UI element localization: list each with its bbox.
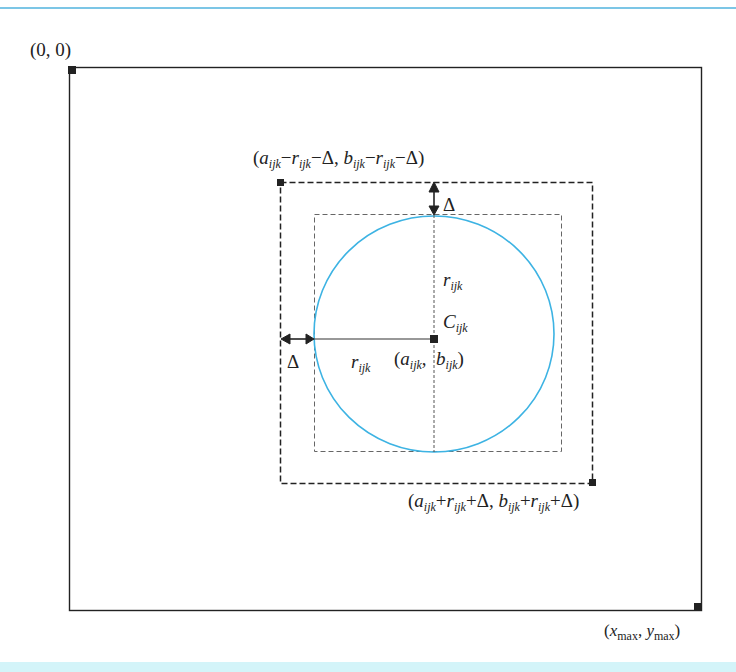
delta-left-arrow <box>281 334 314 344</box>
max-marker <box>694 603 702 611</box>
origin-marker <box>68 66 76 74</box>
delta-left-label: Δ <box>287 352 299 371</box>
expanded-bounding-box <box>281 183 593 484</box>
radius-horizontal-label: rijk <box>351 352 370 374</box>
center-coords-label: (aijk, bijk) <box>394 349 464 371</box>
max-corner-label: (xmax, ymax) <box>604 622 680 642</box>
origin-label: (0, 0) <box>30 40 71 59</box>
bottom-band <box>0 662 736 672</box>
expanded-bottom-right-marker <box>589 479 596 486</box>
delta-top-arrow <box>429 182 439 215</box>
expanded-bottom-right-label: (aijk+rijk+Δ, bijk+rijk+Δ) <box>408 491 579 513</box>
expanded-top-left-label: (aijk−rijk−Δ, bijk−rijk−Δ) <box>253 148 424 170</box>
radius-vertical-label: rijk <box>443 270 462 292</box>
center-name-label: Cijk <box>443 312 468 334</box>
center-marker <box>430 335 438 343</box>
circle-bounding-box <box>315 215 562 452</box>
expanded-top-left-marker <box>277 179 284 186</box>
diagram-canvas <box>0 0 736 672</box>
delta-top-label: Δ <box>443 195 455 214</box>
